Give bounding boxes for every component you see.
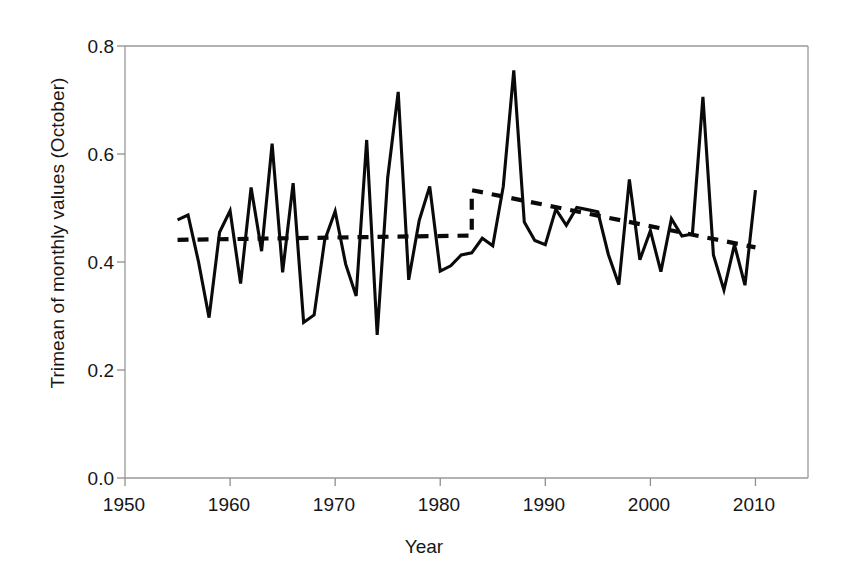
y-tick-marks xyxy=(117,46,125,478)
plot-area xyxy=(0,0,848,583)
chart-figure: Trimean of monthly values (October) Year… xyxy=(0,0,848,583)
x-tick-marks xyxy=(125,478,755,486)
data-series-line xyxy=(178,70,756,335)
axis-frame xyxy=(125,46,808,478)
